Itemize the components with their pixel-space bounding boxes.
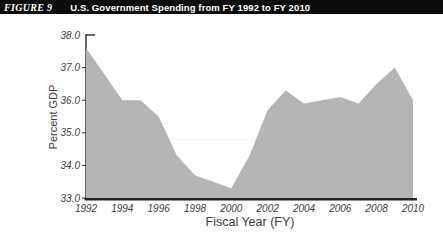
area-series: [86, 48, 413, 198]
y-tick-label: 38.0: [61, 30, 81, 41]
x-tick-label: 1996: [148, 203, 171, 214]
x-tick-label: 2000: [219, 203, 243, 214]
y-tick-label: 36.0: [61, 95, 81, 106]
y-tick-label: 35.0: [61, 127, 81, 138]
x-tick-label: 2010: [401, 203, 425, 214]
area-chart: 2010200820062004200220001998199619941992…: [0, 14, 443, 234]
y-axis-title: Percent GDP: [47, 85, 59, 150]
x-tick-label: 2002: [256, 203, 280, 214]
x-tick-label: 1994: [111, 203, 134, 214]
y-tick-label: 34.0: [61, 160, 81, 171]
x-axis-title: Fiscal Year (FY): [206, 215, 295, 229]
y-tick-label: 37.0: [61, 62, 81, 73]
figure-header: FIGURE 9 U.S. Government Spending from F…: [0, 0, 443, 14]
x-tick-label: 2008: [365, 203, 389, 214]
figure-label: FIGURE 9: [4, 2, 52, 13]
figure-panel: FIGURE 9 U.S. Government Spending from F…: [0, 0, 443, 234]
chart-svg: 2010200820062004200220001998199619941992…: [0, 14, 443, 234]
y-tick-label: 33.0: [61, 193, 81, 204]
x-tick-label: 1992: [75, 203, 98, 214]
figure-title: U.S. Government Spending from FY 1992 to…: [70, 2, 310, 13]
x-tick-label: 1998: [184, 203, 207, 214]
x-tick-label: 2004: [292, 203, 316, 214]
x-tick-label: 2006: [328, 203, 352, 214]
